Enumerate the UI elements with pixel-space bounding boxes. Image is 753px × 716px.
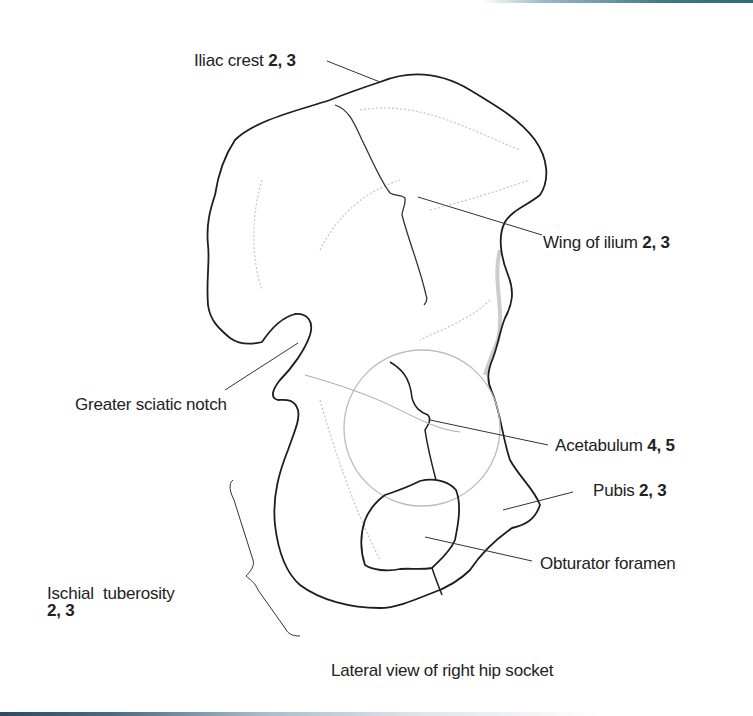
reference-numbers: 2, 3: [642, 233, 670, 252]
ischial-tuberosity-brace: [230, 480, 300, 636]
leader-wing-of-ilium: [418, 197, 542, 235]
reference-numbers: 2, 3: [47, 601, 75, 620]
figure-caption: Lateral view of right hip socket: [331, 662, 553, 679]
leader-obturator-foramen: [425, 537, 532, 561]
leader-iliac-crest: [327, 61, 380, 82]
leader-greater-sciatic-notch: [225, 343, 298, 390]
reference-numbers: 2, 3: [639, 481, 667, 500]
reference-numbers: 4, 5: [647, 436, 675, 455]
bottom-accent-bar: [0, 712, 753, 716]
reference-numbers: 2, 3: [268, 51, 296, 70]
leader-acetabulum: [430, 420, 548, 445]
label-obturator-foramen: Obturator foramen: [540, 555, 676, 572]
label-pubis: Pubis 2, 3: [593, 482, 667, 499]
label-acetabulum: Acetabulum 4, 5: [555, 437, 675, 454]
label-wing-of-ilium: Wing of ilium 2, 3: [543, 234, 670, 251]
label-greater-sciatic-notch: Greater sciatic notch: [75, 396, 227, 413]
leader-pubis: [503, 492, 573, 510]
label-iliac-crest: Iliac crest 2, 3: [194, 52, 296, 69]
label-ischial-tuberosity: Ischial tuberosity 2, 3: [38, 568, 175, 619]
